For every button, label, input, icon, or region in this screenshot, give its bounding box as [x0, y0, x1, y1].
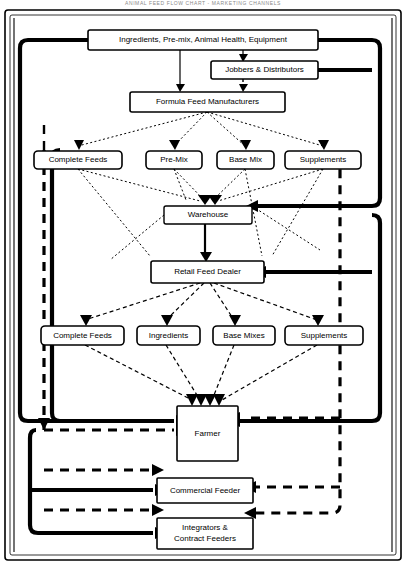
- arrow-dot-warehouse-b: [208, 195, 222, 205]
- arrow-dot-supp: [318, 140, 329, 150]
- node-label-warehouse: Warehouse: [188, 210, 229, 219]
- dot-formula-complete: [78, 112, 207, 146]
- arrow-dash-integrators-left: [152, 504, 164, 516]
- dash-basemixes-farmer: [212, 345, 234, 400]
- dot-complete-retail: [78, 169, 150, 256]
- node-label-rd-supp: Supplements: [301, 331, 348, 340]
- dash-retail-complete: [85, 283, 200, 320]
- node-label-mfr-basemix: Base Mix: [229, 155, 262, 164]
- node-label-jobbers: Jobbers & Distributors: [225, 65, 304, 74]
- node-mfr-complete[interactable]: Complete Feeds: [34, 151, 122, 169]
- dotted-distribution-network: [78, 112, 323, 260]
- dash-retail-ingredients: [166, 283, 204, 320]
- node-commercial[interactable]: Commercial Feeder: [157, 478, 253, 503]
- node-label-integrators: Integrators &: [182, 523, 228, 532]
- node-label-formula: Formula Feed Manufacturers: [156, 97, 259, 106]
- node-label-commercial: Commercial Feeder: [170, 486, 241, 495]
- solid-left-loop-farmer: [52, 150, 174, 421]
- arrow-dash-commercial-left: [152, 464, 164, 476]
- node-label-integrators: Contract Feeders: [174, 534, 236, 543]
- arrow-rd-supp: [312, 315, 324, 326]
- dot-formula-basemix: [207, 112, 245, 146]
- arrow-dot-premix: [169, 140, 180, 150]
- node-rd-basemixes[interactable]: Base Mixes: [213, 326, 275, 345]
- dot-premix-retail: [174, 169, 186, 200]
- feed-marketing-flowchart: ANIMAL FEED FLOW CHART - MARKETING CHANN…: [0, 0, 406, 563]
- node-label-mfr-supp: Supplements: [300, 155, 347, 164]
- arrow-rd-complete: [80, 315, 92, 326]
- arrow-formula-right: [239, 84, 248, 92]
- node-label-rd-ingredients: Ingredients: [149, 331, 189, 340]
- dash-complete-farmer: [85, 345, 192, 400]
- dot-formula-supp: [207, 112, 323, 146]
- dot-warehouse-right: [252, 206, 320, 250]
- solid-right-loop-farmer: [240, 215, 380, 421]
- arrow-farmer-d: [213, 394, 225, 406]
- node-warehouse[interactable]: Warehouse: [164, 206, 252, 224]
- arrow-rd-basemixes: [229, 315, 241, 326]
- node-label-mfr-complete: Complete Feeds: [49, 155, 108, 164]
- diagram-title: ANIMAL FEED FLOW CHART - MARKETING CHANN…: [125, 0, 281, 6]
- node-mfr-basemix[interactable]: Base Mix: [217, 151, 274, 169]
- dash-ingredients-farmer: [166, 345, 200, 400]
- node-label-rd-basemixes: Base Mixes: [223, 331, 264, 340]
- dash-supp-farmer: [222, 345, 317, 400]
- dot-warehouse-left: [110, 215, 164, 260]
- node-mfr-supp[interactable]: Supplements: [285, 151, 361, 169]
- diagram-canvas: ANIMAL FEED FLOW CHART - MARKETING CHANN…: [0, 0, 406, 563]
- node-label-mfr-premix: Pre-Mix: [160, 155, 188, 164]
- node-label-rd-complete: Complete Feeds: [53, 331, 112, 340]
- node-label-ingredients: Ingredients, Pre-mix, Animal Health, Equ…: [119, 35, 288, 44]
- node-label-retail: Retail Feed Dealer: [174, 267, 241, 276]
- node-ingredients[interactable]: Ingredients, Pre-mix, Animal Health, Equ…: [88, 30, 318, 50]
- node-mfr-premix[interactable]: Pre-Mix: [146, 151, 202, 169]
- node-label-farmer: Farmer: [195, 429, 221, 438]
- arrow-dot-basemix: [240, 140, 251, 150]
- dotted-arrowheads-row2: [74, 140, 329, 205]
- node-farmer[interactable]: Farmer: [177, 406, 238, 461]
- node-rd-ingredients[interactable]: Ingredients: [137, 326, 200, 345]
- node-rd-complete[interactable]: Complete Feeds: [41, 326, 124, 345]
- node-integrators[interactable]: Integrators &Contract Feeders: [157, 518, 253, 549]
- arrow-formula-left: [176, 84, 185, 92]
- node-retail[interactable]: Retail Feed Dealer: [151, 261, 264, 283]
- node-rd-supp[interactable]: Supplements: [285, 326, 363, 345]
- node-jobbers[interactable]: Jobbers & Distributors: [211, 61, 318, 79]
- dot-complete-warehouse: [78, 169, 200, 201]
- arrow-rd-ingredients: [161, 315, 173, 326]
- node-formula[interactable]: Formula Feed Manufacturers: [130, 92, 285, 112]
- solid-left-to-integrators: [30, 430, 153, 533]
- arrow-dash-left-up: [38, 418, 50, 430]
- dash-retail-supp: [214, 283, 317, 320]
